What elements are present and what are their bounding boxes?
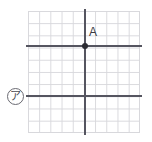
vertical-axis-through-point: [84, 9, 86, 135]
point-a-marker: [82, 43, 88, 49]
circled-katakana-a-marker: ア: [7, 88, 24, 105]
point-a-label: A: [89, 26, 97, 38]
grid-edge-right: [139, 11, 140, 133]
coordinate-grid-figure: A ア: [0, 0, 152, 142]
